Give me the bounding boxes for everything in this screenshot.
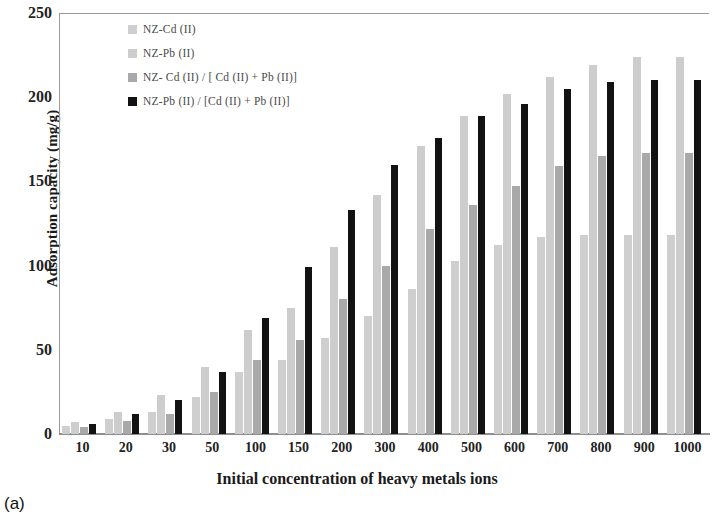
bar: [589, 65, 597, 434]
y-tick-50: 50: [12, 342, 52, 358]
bar: [598, 156, 606, 434]
bar: [382, 266, 390, 434]
bar-group: [624, 13, 665, 434]
bar-group: [580, 13, 621, 434]
chart-legend: NZ-Cd (II)NZ-Pb (II)NZ- Cd (II) / [ Cd (…: [128, 18, 458, 114]
bar: [685, 153, 693, 434]
bar: [321, 338, 329, 434]
x-tick-500: 500: [450, 440, 493, 456]
bar: [624, 235, 632, 434]
bar: [330, 247, 338, 434]
bar: [348, 210, 355, 434]
bar: [564, 89, 571, 434]
legend-item: NZ-Cd (II): [128, 18, 458, 40]
y-tick-0: 0: [12, 426, 52, 442]
bar: [451, 261, 459, 434]
bar: [192, 397, 200, 434]
bar: [373, 195, 381, 434]
bar: [537, 237, 545, 434]
bar: [114, 412, 122, 434]
bar: [667, 235, 675, 434]
legend-swatch-icon: [128, 49, 137, 58]
bar: [296, 340, 304, 434]
x-tick-600: 600: [493, 440, 536, 456]
bar: [460, 116, 468, 434]
bar: [62, 426, 70, 434]
bar: [80, 427, 88, 434]
bar-group: [667, 13, 708, 434]
bar-group: [62, 13, 103, 434]
bar: [408, 289, 416, 434]
bar: [219, 372, 226, 434]
x-axis-tick-labels: 1020305010015020030040050060070080090010…: [61, 440, 709, 464]
x-tick-900: 900: [623, 440, 666, 456]
y-tick-200: 200: [12, 89, 52, 105]
bar: [166, 414, 174, 434]
bar-group: [494, 13, 535, 434]
figure-panel: Adsorption capacity (mg/g) 0501001502002…: [0, 0, 714, 525]
x-tick-20: 20: [104, 440, 147, 456]
bar: [123, 421, 131, 434]
bar: [253, 360, 261, 434]
bar: [580, 235, 588, 434]
bar: [105, 419, 113, 434]
bar-group: [537, 13, 578, 434]
bar: [235, 372, 243, 434]
legend-swatch-icon: [128, 25, 137, 34]
x-axis-title: Initial concentration of heavy metals io…: [0, 470, 714, 488]
bar: [555, 166, 563, 434]
bar: [435, 138, 442, 434]
bar: [469, 205, 477, 434]
y-tick-100: 100: [12, 258, 52, 274]
bar: [148, 412, 156, 434]
bar: [89, 424, 96, 434]
x-tick-700: 700: [536, 440, 579, 456]
bar: [287, 308, 295, 434]
legend-item: NZ-Pb (II) / [Cd (II) + Pb (II)]: [128, 90, 458, 112]
legend-item: NZ-Pb (II): [128, 42, 458, 64]
bar: [210, 392, 218, 434]
bar: [546, 77, 554, 434]
x-tick-100: 100: [234, 440, 277, 456]
bar: [651, 80, 658, 434]
x-tick-150: 150: [277, 440, 320, 456]
bar: [175, 400, 182, 434]
bar: [676, 57, 684, 434]
bar: [494, 245, 502, 434]
bar: [262, 318, 269, 434]
x-tick-200: 200: [320, 440, 363, 456]
y-axis-tick-labels: 050100150200250: [8, 0, 52, 525]
legend-label: NZ- Cd (II) / [ Cd (II) + Pb (II)]: [143, 71, 297, 83]
x-tick-300: 300: [363, 440, 406, 456]
bar: [503, 94, 511, 434]
bar: [417, 146, 425, 434]
legend-label: NZ-Cd (II): [143, 23, 196, 35]
x-tick-400: 400: [407, 440, 450, 456]
legend-swatch-icon: [128, 97, 137, 106]
bar: [521, 104, 528, 434]
bar: [694, 80, 701, 434]
bar: [305, 267, 312, 434]
bar: [364, 316, 372, 434]
x-tick-50: 50: [191, 440, 234, 456]
bar: [633, 57, 641, 434]
bar: [339, 299, 347, 434]
x-tick-1000: 1000: [666, 440, 709, 456]
bar: [478, 116, 485, 434]
y-tick-150: 150: [12, 173, 52, 189]
bar: [244, 330, 252, 434]
bar: [391, 165, 398, 434]
x-tick-800: 800: [579, 440, 622, 456]
bar: [426, 229, 434, 434]
bar: [201, 367, 209, 434]
legend-label: NZ-Pb (II) / [Cd (II) + Pb (II)]: [143, 95, 290, 107]
bar: [642, 153, 650, 434]
y-tick-250: 250: [12, 5, 52, 21]
x-tick-10: 10: [61, 440, 104, 456]
bar: [71, 422, 79, 434]
legend-swatch-icon: [128, 73, 137, 82]
bar: [132, 414, 139, 434]
legend-item: NZ- Cd (II) / [ Cd (II) + Pb (II)]: [128, 66, 458, 88]
legend-label: NZ-Pb (II): [143, 47, 195, 59]
bar: [607, 82, 614, 434]
